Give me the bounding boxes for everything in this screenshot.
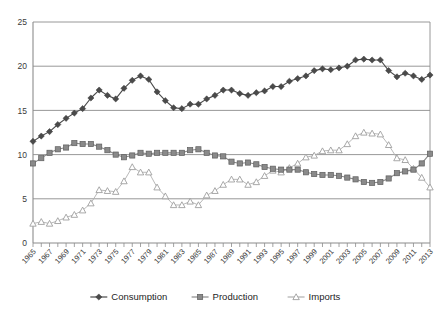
data-point-marker [261,88,267,94]
data-point-marker [353,177,358,182]
data-point-marker [237,161,242,166]
data-point-marker [130,153,135,158]
data-point-marker [96,187,102,193]
x-axis-tick-label: 2013 [417,247,435,266]
data-point-marker [38,133,44,139]
data-point-marker [198,294,203,299]
x-axis-tick-label: 1973 [86,247,104,266]
data-point-marker [237,91,243,97]
data-point-marker [352,133,358,139]
y-axis-tick-label: 15 [18,106,28,116]
data-point-marker [30,161,35,166]
data-point-marker [411,167,416,172]
data-point-marker [262,164,267,169]
data-point-marker [403,169,408,174]
data-point-marker [63,145,68,150]
data-point-marker [121,178,127,184]
x-axis-tick-label: 2011 [401,247,419,265]
x-axis-tick-label: 1981 [152,247,170,266]
data-point-marker [402,70,408,76]
legend-item-consumption[interactable]: Consumption [90,291,167,302]
x-axis-tick-label: 1985 [185,247,203,266]
x-axis-tick-label: 2005 [351,247,369,266]
y-axis-tick-label: 25 [18,17,28,27]
data-point-marker [97,144,102,149]
data-point-marker [229,159,234,164]
data-point-marker [154,184,160,190]
data-point-marker [328,67,334,73]
x-axis-tick-label: 1993 [251,247,269,266]
y-axis-tick-label: 10 [18,150,28,160]
data-point-marker [30,138,36,144]
legend-item-production[interactable]: Production [192,291,258,302]
data-point-marker [220,87,226,93]
data-point-marker [96,294,102,300]
data-point-marker [71,110,77,116]
data-point-marker [427,151,432,156]
data-point-marker [71,212,77,218]
data-point-marker [228,87,234,93]
x-axis-tick-label: 1967 [36,247,54,266]
legend-label: Consumption [111,291,167,302]
data-point-marker [394,171,399,176]
data-point-marker [328,172,333,177]
data-point-marker [361,56,367,62]
legend-label: Production [213,291,258,302]
x-axis-tick-label: 2009 [384,247,402,266]
data-point-marker [72,141,77,146]
data-point-marker [270,166,275,171]
x-axis-tick-label: 2003 [334,247,352,266]
data-point-marker [311,68,317,74]
data-point-marker [254,162,259,167]
data-point-marker [419,76,425,82]
data-point-marker [146,76,152,82]
series-line [33,59,430,141]
x-axis-tick-label: 2001 [318,247,336,266]
x-axis-tick-label: 1995 [268,247,286,266]
data-point-marker [212,92,218,98]
data-point-marker [253,179,259,185]
data-point-marker [369,57,375,63]
data-point-marker [80,141,85,146]
data-point-marker [294,160,300,166]
data-point-marker [295,167,300,172]
data-point-marker [138,150,143,155]
data-point-marker [195,101,201,107]
data-point-marker [279,167,284,172]
data-point-marker [212,153,217,158]
data-point-marker [88,200,94,206]
data-point-marker [187,101,193,107]
data-point-marker [370,180,375,185]
data-point-marker [286,78,292,84]
data-point-marker [188,148,193,153]
data-point-marker [345,175,350,180]
x-axis-tick-label: 1989 [218,247,236,266]
legend-item-imports[interactable]: Imports [288,291,341,302]
y-axis-tick-label: 0 [22,238,27,248]
data-point-marker [196,147,201,152]
data-point-marker [55,147,60,152]
x-axis-tick-label: 1971 [69,247,87,266]
x-axis: 1965196719691971197319751977197919811983… [20,243,435,266]
x-axis-tick-label: 1987 [202,247,220,266]
x-axis-tick-label: 1975 [103,247,121,266]
data-point-marker [245,160,250,165]
data-point-marker [295,75,301,81]
data-point-marker [47,150,52,155]
data-point-marker [129,164,135,170]
data-point-marker [427,72,433,78]
data-point-marker [179,150,184,155]
data-point-marker [220,181,226,187]
data-point-marker [245,92,251,98]
x-axis-tick-label: 1979 [136,247,154,266]
data-point-marker [270,83,276,89]
data-point-marker [361,179,366,184]
data-point-marker [394,155,400,161]
data-point-marker [212,188,218,194]
x-axis-tick-label: 1977 [119,247,137,266]
data-point-marker [303,73,309,79]
line-chart: 0510152025196519671969197119731975197719… [0,0,436,312]
data-point-marker [312,171,317,176]
data-point-marker [378,179,383,184]
data-point-marker [154,150,159,155]
